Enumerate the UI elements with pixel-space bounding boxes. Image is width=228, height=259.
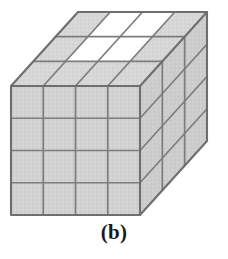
figure-container: (b) <box>0 0 228 259</box>
figure-label: (b) <box>0 219 228 245</box>
